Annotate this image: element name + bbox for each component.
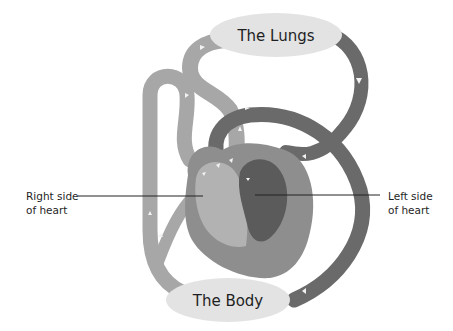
right-heart-label-line2: of heart	[26, 204, 67, 216]
right-heart-label-line1: Right side	[26, 190, 79, 202]
lungs-label: The Lungs	[236, 27, 314, 45]
heart	[185, 143, 313, 278]
body-node: The Body	[166, 278, 290, 322]
arrow-icon	[158, 233, 163, 237]
lungs-node: The Lungs	[210, 13, 342, 57]
left-heart-label-line1: Left side	[388, 190, 433, 202]
body-label: The Body	[192, 292, 264, 310]
left-heart-label-line2: of heart	[388, 204, 429, 216]
circulation-diagram: The Lungs The Body Right side of heart L…	[0, 0, 453, 331]
